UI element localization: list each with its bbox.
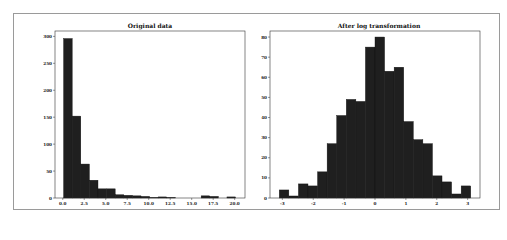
x-tick-label: -3 [280, 201, 285, 206]
histogram-bar [81, 164, 90, 198]
histogram-bar [64, 39, 73, 198]
y-tick-label: 20 [261, 155, 267, 160]
histogram-log-transformed: After log transformation -3-2-1012301020… [256, 22, 486, 212]
x-tick-label: 2 [435, 201, 438, 206]
x-tick-label: 3 [466, 201, 469, 206]
x-tick-label: -2 [311, 201, 316, 206]
y-tick-label: 200 [43, 88, 52, 93]
y-tick-label: 50 [46, 169, 52, 174]
y-tick-label: 150 [43, 115, 52, 120]
x-tick-label: 1 [404, 201, 407, 206]
histogram-bar [318, 172, 328, 198]
y-tick-label: 100 [43, 142, 52, 147]
histogram-bar [115, 195, 124, 198]
histogram-bar [346, 99, 356, 198]
y-tick-label: 80 [261, 35, 267, 40]
x-tick-label: 0.0 [59, 201, 66, 206]
histogram-bar [375, 37, 385, 198]
y-tick-label: 60 [261, 75, 267, 80]
histogram-log-svg: After log transformation -3-2-1012301020… [256, 22, 486, 212]
chart-title: Original data [128, 22, 173, 30]
y-tick-label: 40 [261, 115, 267, 120]
histogram-bar [356, 101, 366, 198]
histogram-bar [394, 67, 404, 198]
histogram-bar [107, 189, 116, 198]
histogram-bar [404, 122, 414, 198]
x-tick-label: -1 [342, 201, 347, 206]
histogram-bar [442, 182, 452, 198]
histogram-bar [279, 190, 289, 198]
histogram-original-data: Original data 0.02.55.07.510.012.515.017… [30, 22, 250, 212]
y-tick-label: 50 [261, 95, 267, 100]
histogram-bar [423, 144, 433, 198]
histogram-bar [201, 196, 210, 198]
histogram-bar [298, 184, 308, 198]
y-tick-label: 30 [261, 135, 267, 140]
histogram-bar [89, 180, 98, 198]
histogram-bar [132, 196, 141, 198]
y-tick-label: 250 [43, 61, 52, 66]
y-tick-label: 0 [49, 196, 52, 201]
histogram-bar [432, 176, 442, 198]
x-tick-label: 0 [374, 201, 377, 206]
histogram-bar [72, 116, 81, 198]
x-tick-label: 12.5 [165, 201, 175, 206]
y-tick-label: 70 [261, 55, 267, 60]
histogram-bar [365, 47, 375, 198]
histogram-bar [308, 186, 318, 198]
histogram-bar [327, 144, 337, 198]
x-tick-label: 10.0 [144, 201, 154, 206]
histogram-bar [413, 140, 423, 198]
histogram-original-svg: Original data 0.02.55.07.510.012.515.017… [30, 22, 250, 212]
y-tick-label: 300 [43, 34, 52, 39]
histogram-bar [124, 195, 133, 198]
bars [279, 37, 470, 198]
chart-title: After log transformation [337, 22, 421, 30]
histogram-bar [98, 189, 107, 198]
x-tick-label: 2.5 [81, 201, 88, 206]
x-tick-label: 17.5 [208, 201, 218, 206]
x-tick-label: 7.5 [124, 201, 131, 206]
histogram-bar [452, 194, 462, 198]
bars [64, 39, 236, 198]
histogram-bar [337, 116, 347, 198]
y-tick-label: 0 [264, 196, 267, 201]
x-tick-label: 5.0 [102, 201, 109, 206]
y-tick-label: 10 [261, 175, 267, 180]
histogram-bar [385, 71, 395, 198]
x-tick-label: 20.0 [230, 201, 240, 206]
histogram-bar [289, 196, 299, 198]
x-tick-label: 15.0 [187, 201, 197, 206]
histogram-bar [461, 186, 471, 198]
